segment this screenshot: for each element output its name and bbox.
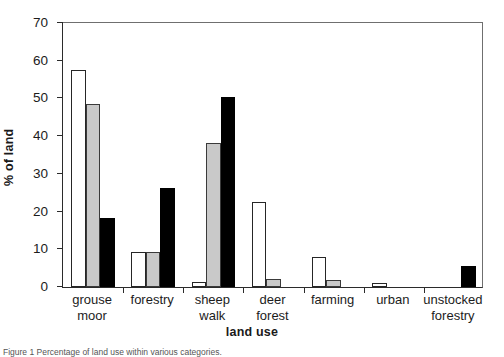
bar-group xyxy=(183,23,243,287)
y-axis-tick-label: 40 xyxy=(33,129,48,143)
y-axis-tick-label: 30 xyxy=(33,167,48,181)
y-axis-tick-label: 70 xyxy=(33,16,48,30)
x-axis-category-label-line: moor xyxy=(51,308,133,324)
bar-white-forestry xyxy=(131,252,146,287)
x-axis-title: land use xyxy=(0,325,504,339)
x-axis-category-label-line: unstocked xyxy=(412,292,494,308)
bar-group xyxy=(304,23,364,287)
figure-caption: Figure 1 Percentage of land use within v… xyxy=(3,347,501,357)
y-axis-tick-label: 0 xyxy=(40,280,48,294)
y-axis-tick-label: 20 xyxy=(33,205,48,219)
y-axis-title-text: % of land xyxy=(2,66,16,186)
bar-grey-sheep-walk xyxy=(206,143,221,287)
bar-group xyxy=(123,23,183,287)
x-axis-category-label: unstockedforestry xyxy=(412,292,494,323)
y-axis-tick-label: 60 xyxy=(33,54,48,68)
bar-black-forestry xyxy=(160,188,175,287)
bar-grey-grouse-moor xyxy=(86,104,101,287)
bar-black-sheep-walk xyxy=(221,97,236,287)
y-axis-title: % of land xyxy=(2,14,18,134)
y-axis-tick-label: 50 xyxy=(33,92,48,106)
y-axis-tick-label: 10 xyxy=(33,243,48,257)
x-axis-category-label-line: forest xyxy=(232,308,314,324)
bar-white-sheep-walk xyxy=(192,282,207,287)
bar-grey-farming xyxy=(326,280,341,287)
bar-group xyxy=(63,23,123,287)
plot-area: 010203040506070 xyxy=(62,22,483,288)
bar-grey-deer-forest xyxy=(266,279,281,287)
figure-container: % of land 010203040506070 grousemoorfore… xyxy=(0,0,504,357)
x-axis-category-label-line: forestry xyxy=(412,308,494,324)
bar-white-urban xyxy=(372,283,387,287)
bar-black-grouse-moor xyxy=(100,218,115,287)
bar-white-grouse-moor xyxy=(71,70,86,287)
bar-grey-forestry xyxy=(146,252,161,287)
bar-white-farming xyxy=(312,257,327,287)
bar-black-unstocked-forestry xyxy=(461,266,476,287)
bar-group xyxy=(424,23,484,287)
bar-group xyxy=(364,23,424,287)
bar-white-deer-forest xyxy=(252,202,267,288)
bar-group xyxy=(243,23,303,287)
